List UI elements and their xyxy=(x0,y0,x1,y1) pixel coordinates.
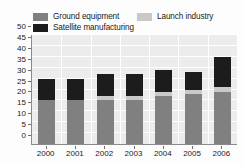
legend-item-launch-industry: Launch industry xyxy=(137,12,213,21)
bar-segment-launch-industry-2004 xyxy=(155,92,172,96)
bar-segment-launch-industry-2005 xyxy=(185,90,202,94)
bar-segment-satellite-manufacturing-2001 xyxy=(67,79,84,101)
legend-label-launch-industry: Launch industry xyxy=(157,12,213,21)
x-tick-mark xyxy=(192,146,193,149)
x-tick-mark xyxy=(221,146,222,149)
chart-container: Ground equipment Satellite manufacturing… xyxy=(0,0,244,165)
x-tick-mark xyxy=(104,146,105,149)
bar-segment-launch-industry-2002 xyxy=(97,96,114,100)
bar-segment-launch-industry-2006 xyxy=(214,87,231,91)
x-tick-label-2000: 2000 xyxy=(31,149,61,158)
legend-item-ground-equipment: Ground equipment xyxy=(33,12,119,21)
vertical-gridline xyxy=(120,35,121,144)
x-axis: 2000200120022003200420052006 xyxy=(31,146,236,162)
y-tick-label-0: 0 xyxy=(22,132,26,140)
y-tick-label-30: 30 xyxy=(17,67,26,75)
legend-label-ground-equipment: Ground equipment xyxy=(53,12,119,21)
plot-area xyxy=(31,35,237,145)
y-tick-label-45: 45 xyxy=(17,34,26,42)
legend-swatch-satellite-manufacturing xyxy=(33,24,48,32)
legend-label-satellite-manufacturing: Satellite manufacturing xyxy=(53,23,134,32)
y-tick-label-25: 25 xyxy=(17,78,26,86)
bar-segment-ground-equipment-2004 xyxy=(155,96,172,144)
x-tick-label-2005: 2005 xyxy=(177,149,207,158)
y-tick-label-35: 35 xyxy=(17,56,26,64)
y-tick-mark xyxy=(28,26,31,27)
x-tick-label-2001: 2001 xyxy=(60,149,90,158)
bar-segment-satellite-manufacturing-2003 xyxy=(126,74,143,96)
bar-2005 xyxy=(185,35,202,144)
bar-2006 xyxy=(214,35,231,144)
legend-swatch-launch-industry xyxy=(137,13,152,21)
vertical-gridline xyxy=(91,35,92,144)
x-tick-mark xyxy=(75,146,76,149)
bar-2004 xyxy=(155,35,172,144)
y-tick-label-10: 10 xyxy=(17,110,26,118)
bar-2002 xyxy=(97,35,114,144)
x-tick-mark xyxy=(46,146,47,149)
y-tick-label-50: 50 xyxy=(17,23,26,31)
bar-segment-ground-equipment-2003 xyxy=(126,100,143,144)
x-tick-label-2004: 2004 xyxy=(148,149,178,158)
vertical-gridline xyxy=(178,35,179,144)
bar-segment-ground-equipment-2005 xyxy=(185,94,202,144)
bar-2001 xyxy=(67,35,84,144)
x-tick-mark xyxy=(134,146,135,149)
bar-segment-satellite-manufacturing-2004 xyxy=(155,70,172,92)
x-tick-label-2002: 2002 xyxy=(89,149,119,158)
vertical-gridline xyxy=(149,35,150,144)
x-tick-label-2006: 2006 xyxy=(206,149,236,158)
y-axis: 05101520253035404550 xyxy=(0,31,31,149)
bar-segment-ground-equipment-2000 xyxy=(38,100,55,144)
vertical-gridline xyxy=(208,35,209,144)
bar-segment-satellite-manufacturing-2005 xyxy=(185,72,202,89)
legend-swatch-ground-equipment xyxy=(33,13,48,21)
bar-segment-satellite-manufacturing-2002 xyxy=(97,74,114,96)
bar-2003 xyxy=(126,35,143,144)
chart-legend: Ground equipment Satellite manufacturing… xyxy=(0,4,244,30)
vertical-gridline xyxy=(61,35,62,144)
bar-segment-launch-industry-2003 xyxy=(126,96,143,100)
bar-segment-ground-equipment-2002 xyxy=(97,100,114,144)
y-tick-label-5: 5 xyxy=(22,121,26,129)
y-tick-label-20: 20 xyxy=(17,88,26,96)
bar-2000 xyxy=(38,35,55,144)
x-tick-mark xyxy=(163,146,164,149)
bar-segment-ground-equipment-2006 xyxy=(214,92,231,144)
bar-segment-ground-equipment-2001 xyxy=(67,100,84,144)
x-tick-label-2003: 2003 xyxy=(119,149,149,158)
y-tick-label-15: 15 xyxy=(17,99,26,107)
y-tick-label-40: 40 xyxy=(17,45,26,53)
bar-segment-satellite-manufacturing-2006 xyxy=(214,57,231,88)
legend-item-satellite-manufacturing: Satellite manufacturing xyxy=(33,23,134,32)
bar-segment-satellite-manufacturing-2000 xyxy=(38,79,55,101)
